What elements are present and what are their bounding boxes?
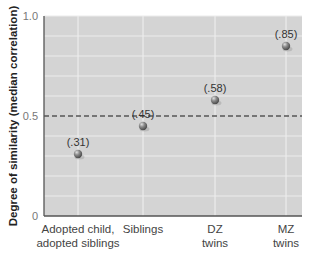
x-category-labels: Adopted child,adopted siblingsSiblingsDZ… [36,223,299,249]
y-axis-label: Degree of similarity (median correlation… [7,6,19,227]
data-label: (.45) [132,108,155,120]
y-tick-label: 1.0 [23,10,38,22]
point-marker [139,122,147,130]
data-label: (.58) [204,82,227,94]
data-label: (.85) [275,28,298,40]
y-tick-label: 0.5 [23,110,38,122]
point-marker [74,150,82,158]
category-label: Siblings [123,223,164,235]
category-label: Adopted child,adopted siblings [36,223,119,249]
chart: 00.51.0 Degree of similarity (median cor… [0,0,312,253]
point-marker [282,42,290,50]
category-label: MZtwins [273,223,299,249]
category-label: DZtwins [202,223,228,249]
data-label: (.31) [67,136,90,148]
y-tick-label: 0 [32,210,38,222]
point-marker [211,96,219,104]
y-tick-labels: 00.51.0 [23,10,38,222]
